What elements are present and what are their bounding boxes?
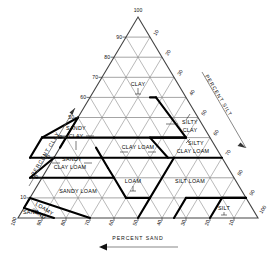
tick-silt-80: 80 <box>236 168 244 176</box>
tick-silt-40: 40 <box>188 88 196 96</box>
tick-sand-50: 50 <box>131 219 139 226</box>
label-silt-loam: SILT LOAM <box>175 178 205 184</box>
tick-clay-30: 30 <box>44 154 50 160</box>
tick-silt-90: 90 <box>248 188 256 196</box>
axis-title-silt: PERCENT SILT <box>204 73 234 117</box>
tick-sand-80: 80 <box>59 219 67 226</box>
tick-silt-50: 50 <box>200 108 208 116</box>
tick-clay-40: 40 <box>56 134 62 140</box>
label-sandy-clay-2: CLAY <box>69 133 84 139</box>
tick-silt-10: 10 <box>152 28 160 36</box>
label-sandy-clay-loam-2: CLAY LOAM <box>54 164 87 170</box>
texture-class-boundaries <box>24 97 246 218</box>
tick-clay-80: 80 <box>104 54 110 60</box>
label-sand: SAND <box>23 209 39 215</box>
tick-silt-30: 30 <box>176 68 184 76</box>
tick-silt-60: 60 <box>212 128 220 136</box>
tick-silt-70: 70 <box>224 148 232 156</box>
tick-clay-10: 10 <box>20 194 26 200</box>
tick-apex-100: 100 <box>134 7 143 13</box>
label-sandy-loam: SANDY LOAM <box>59 188 97 194</box>
label-sandy-clay-1: SANDY <box>66 125 86 131</box>
label-clay: CLAY <box>131 81 146 87</box>
tick-sand-20: 20 <box>203 219 211 226</box>
axis-title-sand: PERCENT SAND <box>112 235 163 241</box>
tick-sand-100: 100 <box>9 216 17 226</box>
tick-clay-20: 20 <box>32 174 38 180</box>
tick-silt-100: 100 <box>258 204 268 215</box>
tick-sand-70: 70 <box>83 219 91 226</box>
tick-sand-10: 10 <box>227 219 235 226</box>
label-silty-clay-loam-1: SILTY <box>188 140 204 146</box>
tick-silt-20: 20 <box>164 48 172 56</box>
triangle-svg: PERCENT CLAY PERCENT SILT PERCENT SAND 1… <box>0 0 277 254</box>
tick-clay-90: 90 <box>116 34 122 40</box>
label-silt: SILT <box>218 205 230 211</box>
tick-clay-70: 70 <box>92 74 98 80</box>
soil-texture-triangle-figure: PERCENT CLAY PERCENT SILT PERCENT SAND 1… <box>0 0 277 254</box>
tick-sand-90: 90 <box>35 219 43 226</box>
tick-sand-60: 60 <box>107 219 115 226</box>
label-silty-clay-2: CLAY <box>183 127 198 133</box>
tick-sand-40: 40 <box>155 219 163 226</box>
label-sandy-clay-loam-1: SANDY <box>62 156 82 162</box>
label-clay-loam: CLAY LOAM <box>122 144 155 150</box>
tick-clay-50: 50 <box>68 114 74 120</box>
label-silty-clay-1: SILTY <box>182 119 198 125</box>
tick-sand-30: 30 <box>179 219 187 226</box>
label-loam: LOAM <box>125 178 142 184</box>
tick-clay-60: 60 <box>80 94 86 100</box>
label-silty-clay-loam-2: CLAY LOAM <box>177 148 210 154</box>
